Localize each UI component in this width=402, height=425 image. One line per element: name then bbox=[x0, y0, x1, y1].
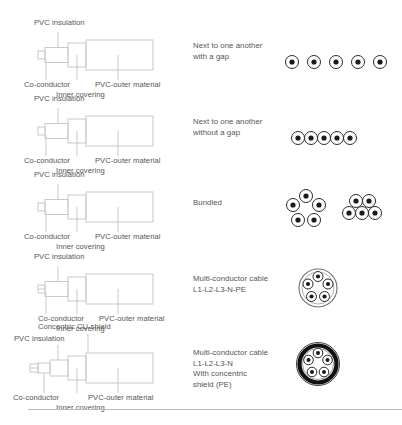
cross-section-bundle-cluster bbox=[338, 191, 392, 233]
row-multi-conductor-cable: PVC insulation Co-conductor Inner coveri… bbox=[0, 248, 402, 326]
bottom-divider bbox=[28, 409, 402, 410]
label-pvc-insulation: PVC insulation bbox=[34, 94, 85, 103]
cross-section-five-circles-spaced bbox=[282, 50, 392, 74]
cross-section-five-circles-touching bbox=[290, 126, 370, 150]
label-pvc-insulation: PVC insulation bbox=[14, 334, 65, 343]
cross-section-multicore-five bbox=[296, 266, 340, 310]
label-pvc-outer-material: PVC-outer material bbox=[95, 232, 160, 241]
label-pvc-outer-material: PVC-outer material bbox=[88, 393, 153, 402]
label-pvc-insulation: PVC insulation bbox=[34, 170, 85, 179]
row-description: Multi-conductor cable L1-L2-L3-N With co… bbox=[193, 348, 268, 390]
row-bundled: PVC insulation Co-conductor Inner coveri… bbox=[0, 166, 402, 246]
label-concentric-cu-shield: Concentric CU-shield bbox=[38, 322, 111, 331]
label-pvc-insulation: PVC insulation bbox=[34, 252, 85, 261]
cross-section-multicore-five-shielded bbox=[294, 340, 342, 388]
row-description: Bundled bbox=[193, 198, 222, 209]
row-description: Next to one another with a gap bbox=[193, 41, 262, 62]
label-pvc-outer-material: PVC-outer material bbox=[95, 156, 160, 165]
label-pvc-outer-material: PVC-outer material bbox=[95, 80, 160, 89]
diagram-sheet: PVC insulation Co-conductor Inner coveri… bbox=[0, 0, 402, 425]
label-co-conductor: Co-conductor bbox=[24, 232, 70, 241]
row-description: Multi-conductor cable L1-L2-L3-N-PE bbox=[193, 274, 268, 295]
row-next-to-one-another-without-gap: PVC insulation Co-conductor Inner coveri… bbox=[0, 90, 402, 168]
label-co-conductor: Co-conductor bbox=[13, 393, 59, 402]
cross-section-bundle-ring bbox=[281, 188, 331, 234]
label-pvc-insulation: PVC insulation bbox=[34, 18, 85, 27]
label-inner-covering: Inner covering bbox=[56, 403, 105, 412]
label-co-conductor: Co-conductor bbox=[24, 156, 70, 165]
row-description: Next to one another without a gap bbox=[193, 117, 262, 138]
label-co-conductor: Co-conductor bbox=[24, 80, 70, 89]
row-next-to-one-another-with-gap: PVC insulation Co-conductor Inner coveri… bbox=[0, 14, 402, 92]
row-multi-conductor-cable-shielded: Concentric CU-shield PVC insulation Co-c… bbox=[0, 322, 402, 408]
